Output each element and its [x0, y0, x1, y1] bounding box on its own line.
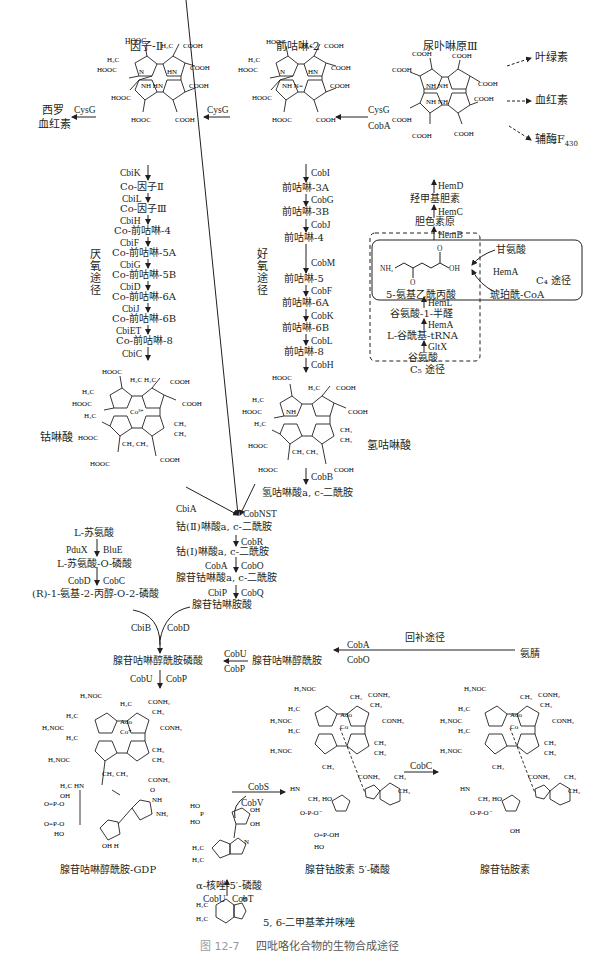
svg-text:COOH: COOH — [392, 66, 412, 74]
svg-text:HOOC: HOOC — [131, 116, 151, 124]
enzyme-cobnst: CobNST — [243, 508, 277, 520]
svg-text:CH₃: CH₃ — [350, 693, 363, 701]
enzyme-cobv: CobV — [241, 797, 264, 809]
svg-text:COOH: COOH — [182, 400, 202, 408]
glutamyl-trna: L-谷酰基-tRNA — [387, 330, 458, 342]
svg-text:CH₃: CH₃ — [564, 773, 577, 781]
hydrogenobyrinic-acid-structure: HOOC H₃C COOH H₃C HOOC COOH H₃C NH CH₃ C… — [240, 368, 385, 483]
svg-text:CH₃ CH₃: CH₃ CH₃ — [292, 448, 319, 456]
uroporphyrinogen3-structure: COOH COOH COOH COOH NH NH NH NH COOH COO… — [392, 48, 512, 158]
svg-text:COOH: COOH — [189, 82, 209, 90]
svg-text:CH₃: CH₃ — [340, 426, 353, 434]
enzyme-pdux: PduX — [66, 544, 88, 556]
svg-text:COOH: COOH — [452, 52, 472, 60]
svg-text:CONH₂: CONH₂ — [358, 773, 381, 781]
hydrogenobyrinic-acid-label: 氢咕啉酸 — [367, 440, 411, 452]
svg-text:CONH₂: CONH₂ — [552, 717, 575, 725]
enzyme-hemd: HemD — [438, 180, 463, 192]
svg-text:COOH: COOH — [190, 64, 210, 72]
svg-text:H₃C: H₃C — [254, 420, 266, 428]
svg-text:HOOC: HOOC — [242, 408, 262, 416]
enzyme-cysg-mid: CysG — [207, 104, 229, 116]
svg-text:H₃C: H₃C — [252, 396, 264, 404]
glutamate: 谷氨酸 — [408, 352, 438, 364]
svg-text:CH₃: CH₃ — [492, 763, 505, 771]
svg-text:HOOC: HOOC — [272, 116, 292, 124]
svg-text:HOOC: HOOC — [97, 66, 117, 74]
svg-text:COOH: COOH — [160, 456, 180, 464]
adocobyric-diamide: 腺苷钴啉酸a, c-二酰胺 — [176, 572, 277, 584]
co-precorrin5b: Co-前咕啉-5B — [112, 269, 176, 281]
enzyme-cbip: CbiP — [208, 587, 227, 599]
svg-text:H₃C: H₃C — [66, 712, 78, 720]
svg-text:COOH: COOH — [330, 82, 350, 90]
enzyme-cobb: CobB — [311, 471, 333, 483]
adocobyric-acid: 腺苷钴啉胺酸 — [192, 599, 252, 611]
enzyme-cobg: CobG — [311, 194, 334, 206]
svg-text:H₂NOC: H₂NOC — [80, 692, 103, 700]
enzyme-cobf: CobF — [311, 285, 332, 297]
svg-text:NH N=: NH N= — [282, 82, 303, 90]
l-threonine-phosphate: L-苏氨酸-O-磷酸 — [57, 558, 132, 570]
enzyme-cobp-b: CobP — [166, 673, 187, 685]
precorrin8: 前咕啉-8 — [284, 346, 324, 358]
cobinamide: 氨腈 — [520, 648, 540, 660]
svg-text:N: N — [280, 68, 285, 76]
co-factor3: Co-因子Ⅲ — [120, 203, 167, 215]
svg-text:HN: HN — [290, 785, 300, 793]
enzyme-blue: BluE — [103, 544, 123, 556]
succinyl-coa: 琥珀酰-CoA — [490, 289, 544, 301]
svg-text:O-P-O⁻: O-P-O⁻ — [470, 809, 493, 817]
precorrin5: 前咕啉-5 — [284, 273, 324, 285]
cobyrinic-acid-structure: HOOC H₃C H₃C COOH H₃C HOOC COOH H₃C Co³⁺… — [70, 360, 215, 480]
co-precorrin5a: Co-前咕啉-5A — [112, 247, 176, 259]
svg-text:COOH: COOH — [474, 95, 494, 103]
enzyme-cobd: CobD — [167, 622, 190, 634]
precorrin3a: 前咕啉-3A — [282, 182, 329, 194]
svg-text:O-P-O⁻: O-P-O⁻ — [300, 809, 323, 817]
svg-text:H₂NOC: H₂NOC — [464, 685, 487, 693]
enzyme-cobu-b: CobU — [130, 673, 153, 685]
svg-text:H₃C: H₃C — [196, 915, 208, 923]
svg-text:HOOC: HOOC — [102, 368, 122, 376]
svg-text:COOH: COOH — [324, 42, 344, 50]
enzyme-cbia: CbiA — [176, 503, 197, 515]
alpha-ribazole-phosphate-structure: HO P HO OH OH H₃C H₃C N — [190, 800, 270, 875]
svg-text:COOH: COOH — [348, 408, 368, 416]
svg-text:H₂NOC: H₂NOC — [440, 747, 463, 755]
svg-text:COOH: COOH — [175, 116, 195, 124]
precorrin6a: 前咕啉-6A — [282, 297, 329, 309]
adocbi-phosphate: 腺苷咕啉醇酰胺磷酸 — [113, 655, 203, 667]
svg-text:HO: HO — [190, 818, 200, 826]
svg-text:CONH₂: CONH₂ — [382, 717, 405, 725]
svg-text:HOOC: HOOC — [111, 94, 131, 102]
svg-text:CH₃: CH₃ — [152, 756, 165, 764]
hydrogenobyrinic-diamide: 氢咕啉酸a, c-二酰胺 — [262, 487, 353, 499]
svg-text:CH₃: CH₃ — [374, 749, 387, 757]
ala-o-carboxyl: O — [437, 243, 442, 255]
svg-text:O=P-O: O=P-O — [44, 820, 64, 828]
svg-text:H₂NOC: H₂NOC — [270, 717, 293, 725]
svg-text:H₃C: H₃C — [82, 388, 94, 396]
svg-text:CONH₂: CONH₂ — [148, 776, 171, 784]
svg-text:Co: Co — [510, 723, 519, 731]
svg-text:Ado: Ado — [340, 711, 353, 719]
sirohaem-label-2: 血红素 — [38, 119, 71, 131]
svg-text:OH: OH — [510, 827, 520, 835]
svg-text:COOH: COOH — [336, 384, 356, 392]
svg-text:COOH: COOH — [392, 116, 412, 124]
svg-text:H₃C: H₃C — [308, 384, 320, 392]
svg-text:CH₃: CH₃ — [340, 436, 353, 444]
svg-text:CONH₂: CONH₂ — [160, 724, 183, 732]
svg-text:CH₃ HO: CH₃ HO — [478, 795, 502, 803]
svg-text:H₂NOC: H₂NOC — [48, 756, 71, 764]
precorrin6b: 前咕啉-6B — [282, 322, 329, 334]
adocbi-gdp-label: 腺苷咕啉醇酰胺-GDP — [60, 864, 156, 876]
svg-text:CH₃: CH₃ — [520, 693, 533, 701]
aerobic-pathway-label: 好氧途径 — [255, 248, 267, 296]
enzyme-cysg-left: CysG — [74, 104, 96, 116]
svg-text:HOOC: HOOC — [248, 442, 268, 450]
salvage-pathway-label: 回补途径 — [405, 632, 445, 644]
adocbl-label: 腺苷钴胺素 — [480, 864, 530, 876]
heme-label: 血红素 — [535, 95, 568, 107]
